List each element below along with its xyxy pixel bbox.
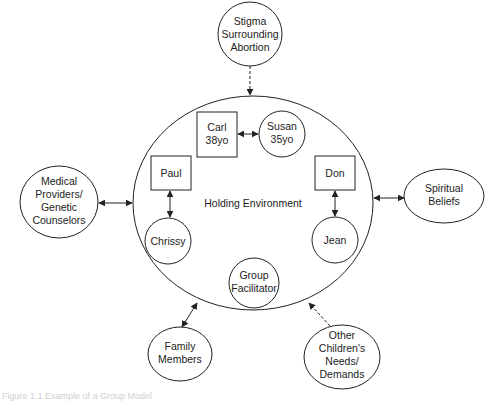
- node-paul: Paul: [151, 156, 191, 190]
- svg-text:Stigma: Stigma: [234, 15, 267, 27]
- node-chrissy: Chrissy: [145, 218, 191, 264]
- node-carl: Carl 38yo: [197, 112, 237, 157]
- svg-text:Members: Members: [158, 353, 202, 365]
- svg-text:Counselors: Counselors: [32, 214, 85, 226]
- arrow-family: [182, 303, 197, 327]
- svg-text:Chrissy: Chrissy: [150, 235, 186, 247]
- svg-text:Jean: Jean: [324, 234, 347, 246]
- node-other-childrens-needs: Other Children's Needs/ Demands: [304, 325, 380, 389]
- node-don: Don: [315, 156, 355, 190]
- arrow-other-children: [309, 303, 330, 326]
- node-medical-providers: Medical Providers/ Genetic Counselors: [20, 166, 98, 238]
- node-susan: Susan 35yo: [259, 111, 305, 157]
- svg-text:Don: Don: [325, 167, 344, 179]
- svg-text:Paul: Paul: [160, 167, 181, 179]
- node-stigma: Stigma Surrounding Abortion: [218, 2, 282, 66]
- svg-text:Abortion: Abortion: [230, 41, 269, 53]
- holding-environment-diagram: Holding Environment Stigma Surrounding A…: [0, 0, 492, 401]
- svg-text:Genetic: Genetic: [41, 201, 77, 213]
- svg-text:Providers/: Providers/: [35, 188, 82, 200]
- node-jean: Jean: [312, 217, 358, 263]
- svg-text:Needs/: Needs/: [325, 355, 358, 367]
- svg-text:Susan: Susan: [267, 120, 297, 132]
- svg-text:Spiritual: Spiritual: [425, 182, 463, 194]
- svg-text:Surrounding: Surrounding: [221, 28, 278, 40]
- svg-text:Demands: Demands: [320, 368, 365, 380]
- svg-text:Carl: Carl: [207, 121, 226, 133]
- svg-text:35yo: 35yo: [271, 133, 294, 145]
- holding-environment-label: Holding Environment: [204, 197, 302, 209]
- node-group-facilitator: Group Facilitator: [229, 258, 279, 308]
- svg-text:Group: Group: [239, 269, 268, 281]
- svg-text:Children's: Children's: [319, 342, 365, 354]
- svg-text:Facilitator: Facilitator: [231, 282, 277, 294]
- svg-text:Beliefs: Beliefs: [428, 195, 460, 207]
- node-spiritual-beliefs: Spiritual Beliefs: [404, 169, 484, 223]
- svg-text:38yo: 38yo: [206, 134, 229, 146]
- svg-text:Medical: Medical: [41, 175, 77, 187]
- figure-caption: Figure 1.1 Example of a Group Model: [2, 391, 152, 401]
- svg-text:Family: Family: [165, 340, 197, 352]
- svg-text:Other: Other: [329, 329, 356, 341]
- node-family-members: Family Members: [148, 327, 212, 381]
